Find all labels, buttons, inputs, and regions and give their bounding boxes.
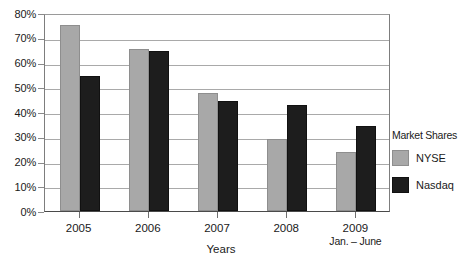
bar-chart: 80%70%60%50%40%30%20%10%0% 2005200620072… bbox=[0, 0, 474, 271]
legend-swatch-nyse bbox=[392, 150, 409, 166]
x-axis-tick-mark bbox=[286, 212, 287, 218]
x-axis-tick-mark bbox=[148, 212, 149, 218]
bar-nyse-2005 bbox=[60, 25, 80, 211]
x-axis-label-year: 2008 bbox=[273, 222, 299, 234]
x-axis-tick-label: 2006 bbox=[108, 222, 188, 235]
bar-group bbox=[267, 15, 307, 211]
y-axis-tick-label: 0% bbox=[0, 207, 36, 218]
x-axis-title: Years bbox=[186, 243, 256, 255]
y-axis-tick-labels: 80%70%60%50%40%30%20%10%0% bbox=[0, 0, 36, 271]
bar-nasdaq-2009 bbox=[356, 126, 376, 211]
x-axis-label-period: Jan. – June bbox=[315, 235, 395, 248]
legend-entry-nyse: NYSE bbox=[392, 150, 474, 166]
bar-nyse-2006 bbox=[129, 49, 149, 211]
legend-entry-nasdaq: Nasdaq bbox=[392, 177, 474, 193]
bar-nasdaq-2006 bbox=[149, 51, 169, 211]
y-axis-tick-label: 30% bbox=[0, 132, 36, 143]
legend-title: Market Shares bbox=[392, 129, 474, 141]
bar-nyse-2009 bbox=[336, 152, 356, 211]
legend-swatch-nasdaq bbox=[392, 177, 409, 193]
y-axis-tick-label: 70% bbox=[0, 33, 36, 44]
y-axis-tick-label: 60% bbox=[0, 58, 36, 69]
bar-nasdaq-2005 bbox=[80, 76, 100, 211]
x-axis-tick-label: 2009Jan. – June bbox=[315, 222, 395, 248]
chart-legend: Market Shares NYSENasdaq bbox=[392, 129, 474, 204]
x-axis-tick-mark bbox=[355, 212, 356, 218]
x-axis-tick-label: 2008 bbox=[246, 222, 326, 235]
bar-nyse-2008 bbox=[267, 139, 287, 211]
bar-group bbox=[60, 15, 100, 211]
bar-nyse-2007 bbox=[198, 93, 218, 211]
x-axis-label-year: 2006 bbox=[135, 222, 161, 234]
bar-nasdaq-2007 bbox=[218, 101, 238, 211]
legend-label-nyse: NYSE bbox=[416, 152, 446, 164]
x-axis-label-year: 2005 bbox=[66, 222, 92, 234]
bar-group bbox=[198, 15, 238, 211]
x-axis-tick-mark bbox=[79, 212, 80, 218]
bar-nasdaq-2008 bbox=[287, 105, 307, 211]
x-axis-tick-label: 2005 bbox=[39, 222, 119, 235]
y-axis-tick-label: 40% bbox=[0, 108, 36, 119]
plot-area bbox=[44, 14, 390, 212]
y-axis-tick-label: 50% bbox=[0, 83, 36, 94]
y-axis-tick-label: 20% bbox=[0, 157, 36, 168]
y-axis-tick-label: 80% bbox=[0, 9, 36, 20]
x-axis-label-year: 2009 bbox=[343, 222, 369, 234]
x-axis-label-year: 2007 bbox=[204, 222, 230, 234]
y-axis-tick-mark bbox=[38, 212, 44, 213]
legend-label-nasdaq: Nasdaq bbox=[416, 179, 454, 191]
legend-entries: NYSENasdaq bbox=[392, 150, 474, 193]
x-axis-tick-mark bbox=[217, 212, 218, 218]
x-axis-tick-label: 2007 bbox=[177, 222, 257, 235]
bar-group bbox=[129, 15, 169, 211]
bar-group bbox=[336, 15, 376, 211]
y-axis-tick-label: 10% bbox=[0, 182, 36, 193]
